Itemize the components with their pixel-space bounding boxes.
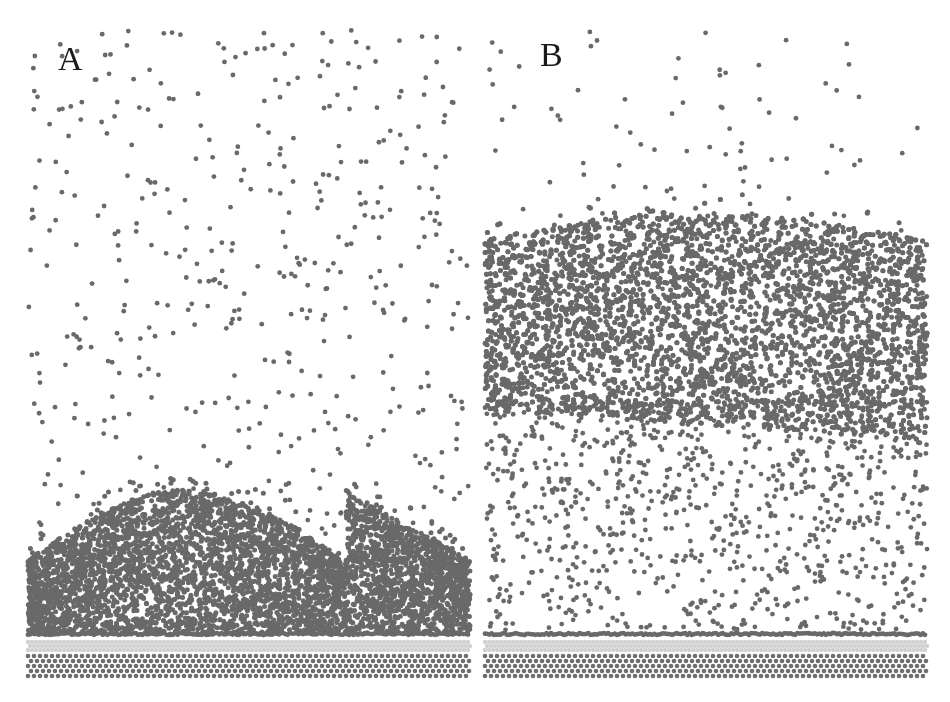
panel-b-label: B: [540, 38, 563, 72]
panel-b: B: [0, 0, 950, 702]
panel-b-particles: [0, 0, 950, 702]
